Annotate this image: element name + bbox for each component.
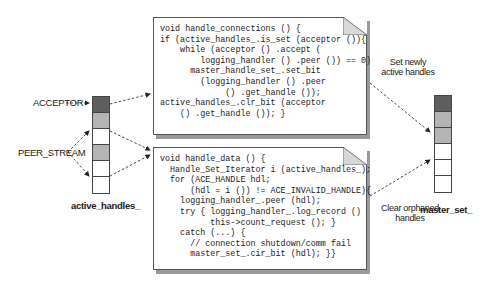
set-newly-active-note: Set newly active handles [380,57,436,77]
dogear-icon [343,147,367,165]
handle-connections-code-box: void handle_connections () { if (active_… [153,17,367,135]
stack-to-data-arrow-upper [110,131,150,150]
handle-cell [93,129,109,145]
handle-cell [93,161,109,177]
handle-cell [435,112,451,128]
stack-to-data-arrow-lower [110,155,150,176]
handle-cell [93,145,109,161]
handle-data-code-box: void handle_data () { Handle_Set_Iterato… [153,147,367,270]
handle-cell [93,97,109,113]
handle-cell [93,177,109,193]
note-line: handles [380,213,440,223]
master-set-stack [434,95,452,193]
handle-cell [93,113,109,129]
handle-data-code: void handle_data () { Handle_Set_Iterato… [154,148,366,260]
diagram-canvas: void handle_connections () { if (active_… [0,0,482,285]
handle-cell [435,128,451,144]
handle-cell [435,160,451,176]
note-line: active handles [380,67,436,77]
active-handles-label: active_handles_ [71,200,140,211]
handle-connections-code: void handle_connections () { if (active_… [154,18,366,119]
clear-orphaned-note: Clear orphaned handles [380,203,440,223]
handle-cell [435,176,451,192]
handle-cell [435,144,451,160]
set-newly-arrow [370,83,430,132]
stack-to-connections-arrow [110,94,150,104]
acceptor-label: ACCEPTOR [33,97,83,108]
clear-orphaned-arrow [370,160,430,196]
note-line: Set newly [380,57,436,67]
dogear-icon [343,17,367,35]
handle-cell [435,96,451,112]
active-handles-stack [92,96,110,194]
peer-stream-label: PEER_STREAM [18,147,85,158]
note-line: Clear orphaned [380,203,440,213]
